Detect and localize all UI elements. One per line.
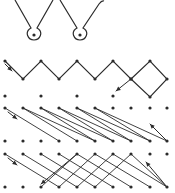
stitch-dot xyxy=(39,139,42,142)
zigzag-thread xyxy=(5,61,167,97)
thread-line xyxy=(59,154,95,187)
stitch-dot xyxy=(111,94,114,97)
stitch-dot xyxy=(3,59,6,62)
thread-line xyxy=(23,154,77,187)
stitch-dot xyxy=(93,77,96,80)
thread-line xyxy=(41,154,77,184)
stitch-dot xyxy=(129,106,132,109)
stitch-dot xyxy=(75,94,78,97)
thread-line xyxy=(59,154,113,187)
stitch-dot xyxy=(39,94,42,97)
stitch-dot xyxy=(3,94,6,97)
stitch-dot xyxy=(57,77,60,80)
thread-line xyxy=(77,154,113,187)
loop-section xyxy=(15,0,104,40)
stitch-dot xyxy=(165,106,168,109)
thread-line xyxy=(41,108,113,141)
stitch-dot xyxy=(78,33,81,36)
thread-line xyxy=(77,108,150,141)
stitch-dot xyxy=(111,106,114,109)
loop-thread xyxy=(60,0,104,40)
thread-line xyxy=(59,108,131,141)
stitch-diagram xyxy=(0,0,175,193)
stitch-dot xyxy=(3,139,6,142)
thread-line xyxy=(146,162,167,187)
stitch-dot xyxy=(21,185,24,188)
thread-line xyxy=(5,154,59,187)
stitch-dot xyxy=(111,59,114,62)
stitch-dot xyxy=(148,95,151,98)
stitch-dot xyxy=(165,152,168,155)
thread-line xyxy=(95,154,131,187)
thread-line xyxy=(95,108,167,141)
crossing-section xyxy=(3,152,168,188)
diagonal-section xyxy=(3,106,168,142)
stitch-dot xyxy=(21,139,24,142)
stitch-dot xyxy=(148,106,151,109)
stitch-dot xyxy=(129,77,132,80)
stitch-dot xyxy=(3,185,6,188)
thread-line xyxy=(41,154,95,187)
stitch-dot xyxy=(148,59,151,62)
stitch-dot xyxy=(165,77,168,80)
stitch-dot xyxy=(39,59,42,62)
thread-line xyxy=(113,154,167,187)
stitch-dot xyxy=(32,33,35,36)
thread-line xyxy=(23,108,95,141)
thread-line xyxy=(131,154,167,187)
stitch-dot xyxy=(148,152,151,155)
stitch-dot xyxy=(75,59,78,62)
stitch-dot xyxy=(21,77,24,80)
zigzag-section xyxy=(3,59,168,98)
